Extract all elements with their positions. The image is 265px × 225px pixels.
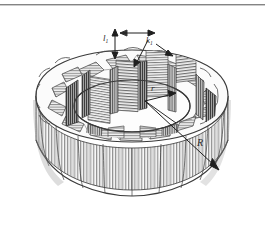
leader-slot-width bbox=[112, 29, 118, 59]
label-tooth-width: k1 bbox=[146, 36, 153, 46]
figure-root: l1 k1 r R bbox=[0, 0, 265, 225]
label-inner-radius: r bbox=[151, 84, 155, 93]
label-outer-radius: R bbox=[197, 138, 203, 148]
stator-body bbox=[33, 29, 231, 196]
stator-illustration bbox=[0, 0, 265, 225]
label-slot-width: l1 bbox=[103, 34, 108, 44]
